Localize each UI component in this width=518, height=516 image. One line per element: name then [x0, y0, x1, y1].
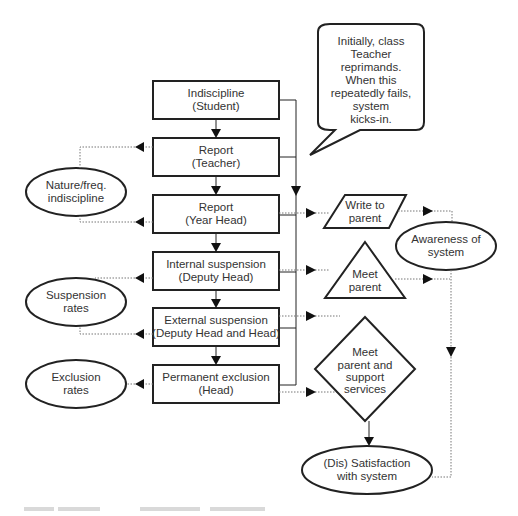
box-report-teacher: Report (Teacher): [153, 138, 279, 176]
ellipse-nature-freq: Nature/freq. indiscipline: [26, 168, 126, 216]
awareness-to-satisfaction-link: [432, 270, 456, 477]
svg-text:Indiscipline: Indiscipline: [188, 87, 245, 99]
shape-write-to-parent: Write to parent: [324, 195, 406, 228]
svg-text:Awareness of: Awareness of: [411, 233, 481, 245]
box-permanent-exclusion: Permanent exclusion (Head): [153, 365, 279, 403]
shape-meet-support-services: Meet parent and support services: [315, 317, 415, 421]
svg-text:(Student): (Student): [192, 100, 239, 112]
svg-text:(Dis) Satisfaction: (Dis) Satisfaction: [324, 457, 411, 469]
svg-text:Report: Report: [199, 201, 234, 213]
bus-arrow-down: [291, 186, 301, 196]
box-indiscipline: Indiscipline (Student): [153, 81, 279, 119]
svg-text:(Head): (Head): [198, 384, 233, 396]
ellipse-satisfaction-with-system: (Dis) Satisfaction with system: [302, 446, 432, 494]
box-report-year-head: Report (Year Head): [153, 195, 279, 233]
svg-text:rates: rates: [63, 384, 89, 396]
svg-text:Internal suspension: Internal suspension: [166, 258, 266, 270]
svg-text:(Year Head): (Year Head): [185, 214, 247, 226]
svg-text:parent: parent: [349, 212, 382, 224]
svg-text:system: system: [353, 100, 389, 112]
svg-text:Report: Report: [199, 144, 234, 156]
svg-text:Initially, class: Initially, class: [338, 35, 405, 47]
svg-text:support: support: [346, 371, 385, 383]
svg-text:services: services: [344, 383, 386, 395]
svg-text:(Deputy Head and Head): (Deputy Head and Head): [152, 327, 280, 339]
svg-text:Suspension: Suspension: [46, 289, 106, 301]
discipline-flow-diagram: Initially, class Teacher reprimands. Whe…: [0, 0, 518, 516]
svg-text:parent: parent: [349, 281, 382, 293]
box-external-suspension: External suspension (Deputy Head and Hea…: [152, 308, 280, 346]
svg-text:indiscipline: indiscipline: [48, 192, 104, 204]
escalation-bus-line: [279, 100, 296, 385]
box-internal-suspension: Internal suspension (Deputy Head): [153, 252, 279, 290]
svg-text:When this: When this: [345, 74, 396, 86]
svg-text:Teacher: Teacher: [351, 48, 392, 60]
svg-text:Write to: Write to: [345, 199, 384, 211]
svg-text:(Teacher): (Teacher): [192, 157, 241, 169]
svg-text:with system: with system: [336, 470, 397, 482]
svg-text:Permanent exclusion: Permanent exclusion: [162, 371, 269, 383]
ellipse-awareness-of-system: Awareness of system: [396, 222, 496, 270]
svg-text:External suspension: External suspension: [164, 314, 268, 326]
svg-text:rates: rates: [63, 302, 89, 314]
svg-text:parent and: parent and: [338, 359, 393, 371]
svg-text:system: system: [428, 246, 464, 258]
svg-text:reprimands.: reprimands.: [341, 61, 402, 73]
svg-text:kicks-in.: kicks-in.: [350, 113, 392, 125]
diamond-to-satisfaction-link: [364, 421, 374, 446]
ellipse-suspension-rates: Suspension rates: [26, 278, 126, 326]
svg-text:Meet: Meet: [352, 346, 378, 358]
svg-text:Nature/freq.: Nature/freq.: [46, 179, 107, 191]
svg-text:repeatedly fails,: repeatedly fails,: [331, 87, 412, 99]
figure-caption-illegible: [24, 507, 265, 511]
svg-text:Meet: Meet: [352, 268, 378, 280]
ellipse-exclusion-rates: Exclusion rates: [26, 360, 126, 408]
svg-text:Exclusion: Exclusion: [51, 371, 100, 383]
shape-meet-parent: Meet parent: [325, 242, 405, 298]
svg-text:(Deputy Head): (Deputy Head): [179, 271, 254, 283]
